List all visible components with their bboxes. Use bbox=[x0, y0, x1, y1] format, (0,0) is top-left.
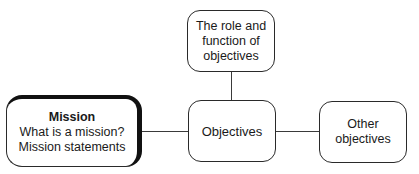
connector-role-objectives bbox=[231, 72, 232, 100]
other-line-1: Other bbox=[347, 117, 378, 132]
mission-line-2: Mission statements bbox=[19, 140, 126, 155]
mission-title: Mission bbox=[49, 110, 96, 125]
role-line-2: function of bbox=[202, 34, 260, 49]
connector-mission-objectives bbox=[142, 131, 188, 132]
role-line-1: The role and bbox=[196, 19, 266, 34]
objectives-label: Objectives bbox=[202, 124, 263, 139]
role-line-3: objectives bbox=[203, 49, 259, 64]
other-objectives-node: Other objectives bbox=[319, 101, 407, 163]
connector-objectives-other bbox=[276, 131, 319, 132]
objectives-node: Objectives bbox=[188, 100, 276, 162]
other-line-2: objectives bbox=[335, 132, 391, 147]
mission-node: Mission What is a mission? Mission state… bbox=[6, 95, 142, 167]
mission-line-1: What is a mission? bbox=[20, 125, 125, 140]
role-function-node: The role and function of objectives bbox=[187, 10, 275, 72]
